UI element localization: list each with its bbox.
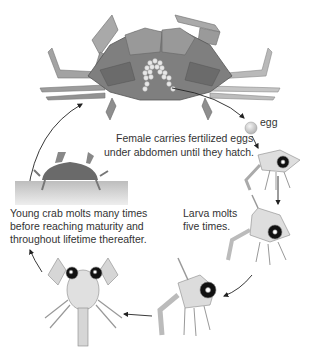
young-crab-caption-line-1: Young crab molts many times (10, 207, 147, 219)
egg-label: egg (260, 116, 278, 128)
adult-female-caption-line-1: Female carries fertilized eggs (116, 132, 253, 144)
larva-stage-3-illustration (160, 258, 216, 336)
larva-stage-1-illustration (246, 150, 300, 190)
young-crab-caption-line-2: before reaching maturity and (10, 220, 144, 232)
young-crab-caption-line-3: throughout lifetime thereafter. (10, 233, 147, 245)
adult-female-caption-line-2: under abdomen until they hatch. (104, 146, 254, 158)
megalopa-illustration (45, 258, 122, 346)
larva-caption-line-2: five times. (183, 220, 230, 232)
young-crab-illustration (15, 152, 128, 205)
crab-life-cycle-diagram (0, 0, 313, 362)
larva-caption-line-1: Larva molts (183, 207, 237, 219)
adult-female-crab-illustration (40, 15, 280, 120)
larva-stage-2-illustration (228, 195, 290, 265)
